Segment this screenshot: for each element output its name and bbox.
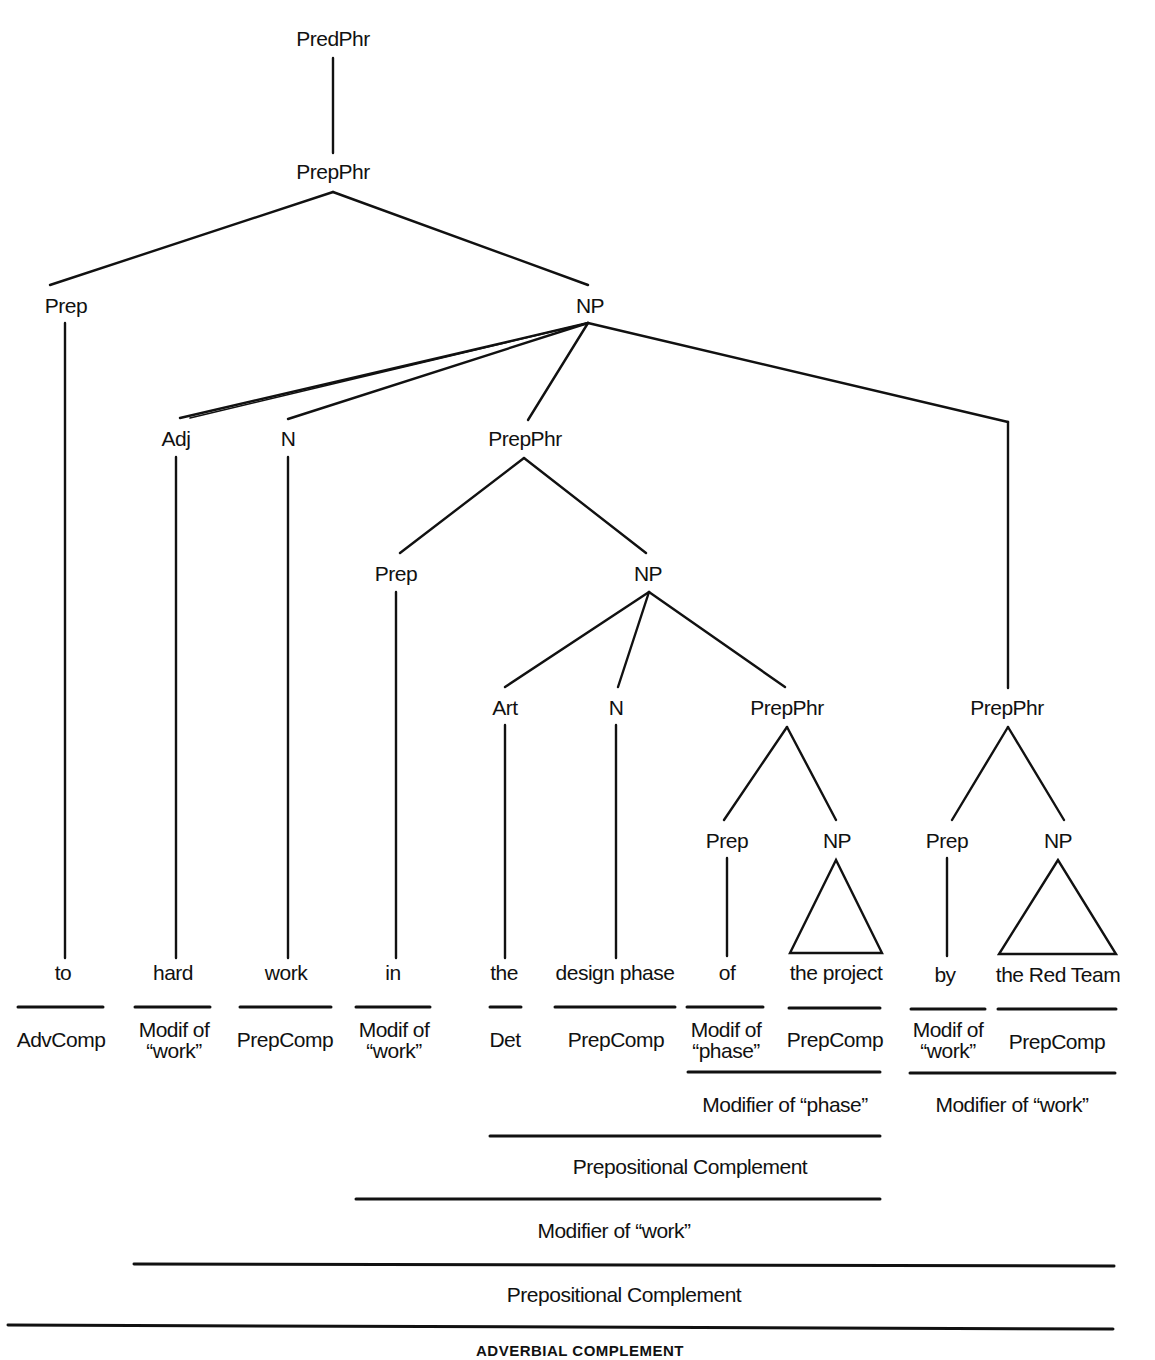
function-label: Modif of “phase” — [681, 1019, 771, 1061]
function-label: Modif of “work” — [903, 1019, 993, 1061]
node-np-3: NP — [823, 830, 851, 852]
node-prep-1: Prep — [45, 295, 87, 317]
node-np-4: NP — [1044, 830, 1072, 852]
node-np-1: NP — [576, 295, 604, 317]
node-n-2: N — [609, 697, 624, 719]
group-label-prepositional-complement-outer: Prepositional Complement — [507, 1284, 741, 1306]
word: by — [934, 964, 955, 986]
node-prepphr-3: PrepPhr — [750, 697, 824, 719]
node-prepphr-top: PrepPhr — [296, 161, 370, 183]
group-label-prepositional-complement-inner: Prepositional Complement — [573, 1156, 807, 1178]
word: the project — [790, 962, 883, 984]
node-predphr: PredPhr — [296, 28, 370, 50]
word: the — [490, 962, 518, 984]
group-label-modifier-of-work-mid: Modifier of “work” — [537, 1220, 690, 1242]
group-label-modifier-of-work-right: Modifier of “work” — [935, 1094, 1088, 1116]
function-label: Modif of “work” — [129, 1019, 219, 1061]
function-label: PrepComp — [237, 1029, 333, 1051]
function-label: PrepComp — [1009, 1031, 1105, 1053]
node-n-1: N — [281, 428, 296, 450]
function-label: AdvComp — [17, 1029, 106, 1051]
word: in — [385, 962, 400, 984]
group-label-adverbial-complement: ADVERBIAL COMPLEMENT — [476, 1340, 684, 1360]
node-prep-4: Prep — [926, 830, 968, 852]
node-art: Art — [492, 697, 517, 719]
function-label: PrepComp — [787, 1029, 883, 1051]
node-prep-2: Prep — [375, 563, 417, 585]
function-label: PrepComp — [568, 1029, 664, 1051]
node-prep-3: Prep — [706, 830, 748, 852]
node-prepphr-4: PrepPhr — [970, 697, 1044, 719]
word: hard — [153, 962, 193, 984]
function-label: Modif of “work” — [349, 1019, 439, 1061]
node-np-2: NP — [634, 563, 662, 585]
function-label: Det — [489, 1029, 520, 1051]
node-prepphr-2: PrepPhr — [488, 428, 562, 450]
word: the Red Team — [996, 964, 1120, 986]
word: design phase — [556, 962, 675, 984]
node-adj: Adj — [162, 428, 191, 450]
word: to — [55, 962, 72, 984]
word: work — [265, 962, 307, 984]
group-label-modifier-of-phase: Modifier of “phase” — [702, 1094, 868, 1116]
word: of — [719, 962, 736, 984]
